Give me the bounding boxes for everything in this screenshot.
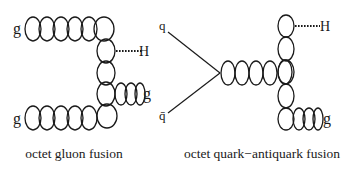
- diagram-octet-gluon-fusion: g H g g octet gluon fusion: [13, 17, 151, 161]
- vertical-gluon-propagator: [97, 39, 117, 128]
- label-outgoing-gluon-right: g: [323, 110, 331, 128]
- label-higgs-left: H: [139, 44, 149, 59]
- label-higgs-right: H: [320, 19, 330, 34]
- caption-octet-gluon-fusion: octet gluon fusion: [25, 146, 123, 161]
- quark-line: [168, 32, 220, 73]
- label-outgoing-gluon-left: g: [143, 85, 151, 103]
- outgoing-gluon-left: [115, 83, 145, 105]
- horizontal-gluon-propagator: [221, 61, 277, 85]
- top-incoming-gluon: [25, 17, 114, 41]
- outgoing-gluon-right: [293, 108, 323, 130]
- vertical-gluon-chain-right: [278, 15, 294, 130]
- label-bottom-gluon: g: [13, 110, 21, 128]
- label-antiquark: q̄: [159, 108, 166, 123]
- label-top-gluon: g: [13, 20, 21, 38]
- label-quark: q: [159, 18, 166, 33]
- feynman-diagrams-canvas: g H g g octet gluon fusion: [0, 0, 347, 172]
- caption-octet-quark-antiquark-fusion: octet quark−antiquark fusion: [184, 146, 340, 161]
- antiquark-line: [168, 73, 220, 113]
- diagram-octet-quark-antiquark-fusion: q q̄ H g octet quark−a: [159, 15, 340, 161]
- bottom-incoming-gluon: [25, 106, 97, 130]
